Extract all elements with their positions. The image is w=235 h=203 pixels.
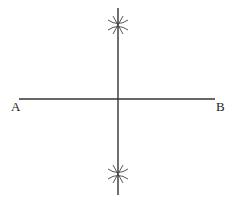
point-label-a: A bbox=[11, 99, 21, 114]
diagram-canvas: A B bbox=[0, 0, 235, 203]
point-label-b: B bbox=[216, 99, 225, 114]
